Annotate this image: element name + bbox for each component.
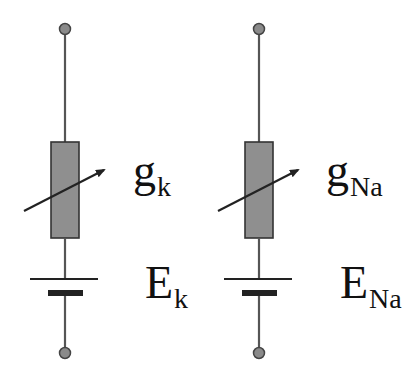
label-gk: gk bbox=[133, 148, 171, 194]
label-ena: ENa bbox=[340, 260, 402, 306]
label-gna: gNa bbox=[326, 148, 383, 194]
conductance-subscript: k bbox=[157, 171, 171, 202]
conductance-symbol: g bbox=[326, 145, 349, 196]
battery-short-plate-icon bbox=[242, 290, 277, 296]
conductance-symbol: g bbox=[133, 145, 156, 196]
terminal-bottom-icon bbox=[254, 348, 265, 359]
battery-subscript: Na bbox=[369, 283, 402, 314]
battery-short-plate-icon bbox=[48, 290, 83, 296]
battery-symbol: E bbox=[145, 257, 173, 308]
terminal-top-icon bbox=[60, 24, 71, 35]
label-ek: Ek bbox=[145, 260, 188, 306]
terminal-top-icon bbox=[254, 24, 265, 35]
branch-potassium bbox=[24, 24, 104, 359]
terminal-bottom-icon bbox=[60, 348, 71, 359]
circuit-diagram: gk Ek gNa ENa bbox=[0, 0, 419, 369]
branch-sodium bbox=[218, 24, 298, 359]
battery-subscript: k bbox=[174, 283, 188, 314]
conductance-subscript: Na bbox=[350, 171, 383, 202]
battery-symbol: E bbox=[340, 257, 368, 308]
